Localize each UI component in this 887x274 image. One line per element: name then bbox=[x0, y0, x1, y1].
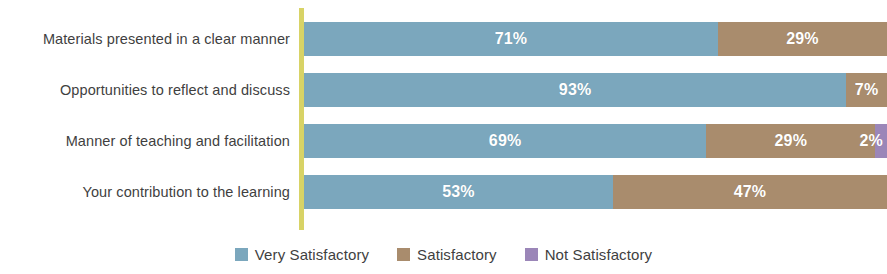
bar-track: 93% 7% bbox=[304, 73, 887, 107]
legend-item-satisfactory[interactable]: Satisfactory bbox=[397, 246, 497, 263]
bar-segment-satisfactory[interactable]: 29% bbox=[718, 22, 887, 56]
bar-value-label: 69% bbox=[489, 132, 522, 150]
bar-value-label: 53% bbox=[442, 183, 475, 201]
bar-segment-very-satisfactory[interactable]: 53% bbox=[304, 175, 613, 209]
bar-value-label: 47% bbox=[734, 183, 767, 201]
legend-swatch-icon bbox=[397, 248, 410, 261]
bar-track: 71% 29% bbox=[304, 22, 887, 56]
bar-value-label: 7% bbox=[855, 81, 879, 99]
bar-segment-satisfactory[interactable]: 29% bbox=[706, 124, 875, 158]
legend-label: Very Satisfactory bbox=[255, 246, 369, 263]
category-label: Manner of teaching and facilitation bbox=[0, 124, 290, 158]
bar-segment-satisfactory[interactable]: 7% bbox=[846, 73, 887, 107]
category-label: Your contribution to the learning bbox=[0, 175, 290, 209]
legend-swatch-icon bbox=[235, 248, 248, 261]
table-row: Opportunities to reflect and discuss 93%… bbox=[0, 73, 887, 107]
plot-area: Materials presented in a clear manner 71… bbox=[0, 0, 887, 232]
bar-segment-very-satisfactory[interactable]: 93% bbox=[304, 73, 846, 107]
bar-value-label: 29% bbox=[774, 132, 807, 150]
bar-value-label: 2% bbox=[859, 132, 883, 150]
legend-label: Satisfactory bbox=[417, 246, 497, 263]
table-row: Materials presented in a clear manner 71… bbox=[0, 22, 887, 56]
table-row: Your contribution to the learning 53% 47… bbox=[0, 175, 887, 209]
category-label: Materials presented in a clear manner bbox=[0, 22, 290, 56]
category-label: Opportunities to reflect and discuss bbox=[0, 73, 290, 107]
bar-track: 69% 29% 2% bbox=[304, 124, 887, 158]
bar-segment-very-satisfactory[interactable]: 69% bbox=[304, 124, 706, 158]
stacked-bar-chart: Materials presented in a clear manner 71… bbox=[0, 0, 887, 274]
chart-legend: Very Satisfactory Satisfactory Not Satis… bbox=[0, 240, 887, 268]
legend-label: Not Satisfactory bbox=[545, 246, 652, 263]
bar-segment-not-satisfactory[interactable]: 2% bbox=[875, 124, 887, 158]
bar-value-label: 71% bbox=[495, 30, 528, 48]
legend-swatch-icon bbox=[525, 248, 538, 261]
legend-item-very-satisfactory[interactable]: Very Satisfactory bbox=[235, 246, 369, 263]
bar-segment-very-satisfactory[interactable]: 71% bbox=[304, 22, 718, 56]
table-row: Manner of teaching and facilitation 69% … bbox=[0, 124, 887, 158]
bar-segment-satisfactory[interactable]: 47% bbox=[613, 175, 887, 209]
bar-value-label: 29% bbox=[786, 30, 819, 48]
bar-value-label: 93% bbox=[559, 81, 592, 99]
legend-item-not-satisfactory[interactable]: Not Satisfactory bbox=[525, 246, 652, 263]
bar-track: 53% 47% bbox=[304, 175, 887, 209]
